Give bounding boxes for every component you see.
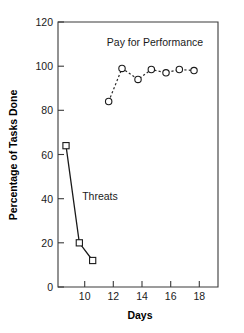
series-threats	[63, 143, 96, 264]
chart-plot-area: 120 100 80 60 40 20 0 10 12 14 16 18 Day…	[0, 0, 244, 333]
y-tick-label-60: 60	[41, 149, 53, 161]
annotation-pay-for-performance: Pay for Performance	[107, 36, 203, 48]
data-point-marker	[76, 240, 82, 246]
y-tick-label-120: 120	[35, 16, 53, 28]
y-axis-tick-labels: 120 100 80 60 40 20 0	[35, 16, 53, 293]
y-tick-label-0: 0	[47, 281, 53, 293]
data-point-marker	[90, 257, 96, 263]
pay-for-performance-markers	[105, 65, 197, 105]
x-axis-ticks	[85, 281, 200, 287]
series-pay-for-performance	[105, 65, 197, 105]
y-axis-title: Percentage of Tasks Done	[7, 90, 19, 221]
x-tick-label-16: 16	[165, 290, 177, 302]
chart-figure: 120 100 80 60 40 20 0 10 12 14 16 18 Day…	[0, 0, 244, 333]
y-axis-ticks	[58, 22, 64, 287]
x-tick-label-12: 12	[107, 290, 119, 302]
y-tick-label-100: 100	[35, 60, 53, 72]
x-tick-label-10: 10	[79, 290, 91, 302]
data-point-marker	[63, 143, 69, 149]
data-point-marker	[191, 67, 197, 73]
data-point-marker	[119, 65, 125, 71]
x-axis-title: Days	[127, 309, 152, 321]
y-tick-label-80: 80	[41, 104, 53, 116]
y-tick-label-40: 40	[41, 193, 53, 205]
annotation-threats: Threats	[82, 190, 118, 202]
data-point-marker	[105, 98, 111, 104]
data-point-marker	[148, 66, 154, 72]
x-tick-label-14: 14	[136, 290, 148, 302]
data-point-marker	[163, 70, 169, 76]
y-tick-label-20: 20	[41, 237, 53, 249]
data-point-marker	[176, 66, 182, 72]
x-tick-label-18: 18	[193, 290, 205, 302]
pay-for-performance-line	[109, 68, 194, 101]
x-axis-tick-labels: 10 12 14 16 18	[79, 290, 205, 302]
data-point-marker	[135, 76, 141, 82]
